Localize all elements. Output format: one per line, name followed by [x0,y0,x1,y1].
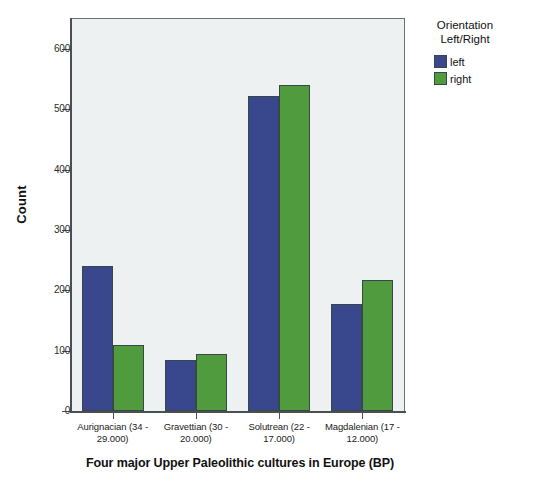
y-axis-tick-label: 200 [26,285,70,295]
bar-left-2 [248,96,279,411]
bar-right-1 [196,354,227,411]
bar-right-2 [279,85,310,411]
x-axis-line [70,411,406,413]
x-axis-title: Four major Upper Paleolithic cultures in… [40,456,440,470]
legend-item-right[interactable]: right [434,72,538,85]
bar-right-3 [362,280,393,411]
category-label-line-2: 12.000) [304,433,420,445]
x-axis-category-label: Magdalenian (17 -12.000) [304,421,420,444]
legend-swatch-left [434,55,447,68]
y-axis-tick-label: 600 [26,44,70,54]
legend-title-line-2: Left/Right [412,32,518,46]
bar-left-0 [82,266,113,411]
category-label-line-1: Magdalenian (17 - [304,421,420,433]
chart-canvas: 6005004003002001000 Count Aurignacian (3… [0,0,542,485]
legend-swatch-right [434,72,447,85]
y-axis-tick-label: 0 [26,406,70,416]
legend-title: Orientation Left/Right [412,18,518,46]
legend-label-left: left [450,56,465,68]
bar-right-0 [113,345,144,411]
y-axis-ticks: 6005004003002001000 [0,0,70,485]
y-axis-tick-label: 500 [26,104,70,114]
bars-layer [71,19,404,411]
y-axis-tick-label: 100 [26,346,70,356]
x-axis-tick [362,412,363,419]
legend-title-line-1: Orientation [412,18,518,32]
bar-left-3 [331,304,362,411]
legend-items: leftright [412,55,538,85]
legend-item-left[interactable]: left [434,55,538,68]
legend: Orientation Left/Right leftright [412,18,538,89]
y-axis-tick-label: 300 [26,225,70,235]
y-axis-line [70,18,72,412]
legend-label-right: right [450,73,471,85]
x-axis-tick [113,412,114,419]
x-axis-tick [196,412,197,419]
x-axis-tick [279,412,280,419]
y-axis-tick-label: 400 [26,165,70,175]
bar-left-1 [165,360,196,411]
y-axis-title: Count [14,160,29,250]
